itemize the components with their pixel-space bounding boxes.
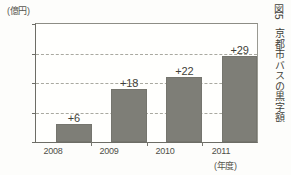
x-axis-unit-label: (年度) (214, 159, 237, 172)
bars-layer: +6 +18 +22 +29 (36, 24, 257, 142)
x-axis-labels: 2008 2009 2010 2011 (35, 146, 258, 160)
figure-caption: 図5 京都市バスの黒字額 (267, 4, 289, 172)
bar-value-2008: +6 (42, 112, 106, 124)
figure-container: (億円) 40 30 20 10 0 +6 +18 (0, 0, 291, 175)
y-tick-mark-0 (32, 142, 36, 143)
bar-2010 (166, 77, 202, 142)
bar-2008 (56, 124, 92, 142)
x-tick-label-2011: 2011 (193, 146, 249, 156)
plot-area: 40 30 20 10 0 +6 +18 +22 (35, 23, 258, 143)
bar-group-2011: +29 (222, 24, 258, 142)
bar-group-2009: +18 (111, 24, 147, 142)
figure-number: 図5 (273, 4, 284, 20)
x-tick-label-2008: 2008 (25, 146, 81, 156)
plot-inner: 40 30 20 10 0 +6 +18 +22 (36, 24, 257, 142)
bar-group-2008: +6 (56, 24, 92, 142)
bar-2009 (111, 89, 147, 142)
figure-caption-text: 京都市バスの黒字額 (272, 28, 284, 123)
bar-value-2009: +18 (97, 77, 161, 89)
bar-group-2010: +22 (166, 24, 202, 142)
bar-2011 (222, 56, 258, 142)
x-tick-label-2010: 2010 (137, 146, 193, 156)
y-axis-unit-label: (億円) (7, 4, 30, 17)
x-tick-label-2009: 2009 (81, 146, 137, 156)
bar-value-2010: +22 (152, 65, 216, 77)
bar-value-2011: +29 (208, 44, 272, 56)
